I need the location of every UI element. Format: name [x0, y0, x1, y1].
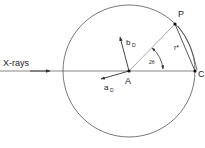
point-c-dot: [193, 69, 196, 72]
vector-a-label: a: [104, 83, 109, 92]
vector-a-sub: D: [110, 87, 114, 93]
point-c-label: C: [198, 69, 205, 79]
diffraction-circle-diagram: X-rays A P C b D a D r* 2θ: [0, 0, 205, 148]
point-a-label: A: [125, 76, 131, 86]
point-a-dot: [127, 69, 130, 72]
angle-label: 2θ: [149, 59, 155, 65]
beam-label: X-rays: [3, 58, 30, 68]
r-star-arc: [178, 26, 197, 70]
point-p-dot: [173, 22, 176, 25]
radius-label: r*: [174, 44, 179, 51]
vector-b-sub: D: [132, 42, 136, 48]
point-p-label: P: [178, 9, 184, 19]
vector-b-label: b: [126, 38, 131, 47]
